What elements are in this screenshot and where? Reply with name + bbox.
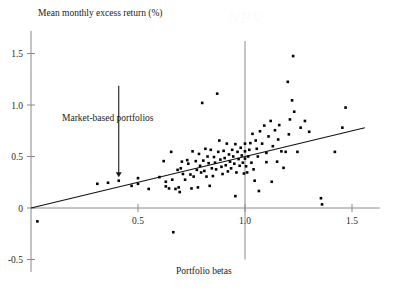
- data-point: [238, 164, 241, 167]
- data-points: [36, 55, 347, 234]
- data-point: [232, 155, 235, 158]
- data-point: [177, 186, 180, 189]
- data-point: [204, 147, 207, 150]
- data-point: [176, 169, 179, 172]
- data-point: [250, 161, 253, 164]
- data-point: [291, 99, 294, 102]
- data-point: [162, 160, 165, 163]
- data-point: [252, 168, 255, 171]
- data-point: [181, 160, 184, 163]
- data-point: [174, 188, 177, 191]
- data-point: [246, 171, 249, 174]
- data-point: [277, 138, 280, 141]
- data-point: [272, 145, 275, 148]
- reference-lines: [31, 41, 380, 259]
- data-point: [229, 160, 232, 163]
- data-point: [182, 173, 185, 176]
- data-point: [187, 162, 190, 165]
- data-point: [334, 151, 337, 154]
- data-point: [282, 167, 285, 170]
- annotation-arrow: [116, 86, 122, 177]
- data-point: [220, 166, 223, 169]
- data-point: [257, 155, 260, 158]
- data-point: [198, 153, 201, 156]
- data-point: [230, 167, 233, 170]
- data-point: [244, 157, 247, 160]
- data-point: [194, 160, 197, 163]
- data-point: [251, 133, 254, 136]
- data-point: [158, 176, 161, 179]
- data-point: [219, 158, 222, 161]
- y-tick-label: 1.0: [11, 101, 23, 111]
- data-point: [171, 178, 174, 181]
- data-point: [231, 149, 234, 152]
- axis-tick-labels: -0.500.51.01.50.51.01.5: [8, 49, 358, 265]
- data-point: [263, 124, 266, 127]
- data-point: [192, 175, 195, 178]
- data-point: [208, 185, 211, 188]
- data-point: [308, 130, 311, 133]
- data-point: [223, 157, 226, 160]
- data-point: [234, 143, 237, 146]
- data-point: [130, 185, 133, 188]
- data-point: [205, 175, 208, 178]
- data-point: [206, 155, 209, 158]
- data-point: [244, 142, 247, 145]
- data-point: [255, 147, 258, 150]
- data-point: [243, 172, 246, 175]
- data-point: [165, 185, 168, 188]
- y-tick-label: -0.5: [8, 255, 23, 265]
- data-point: [261, 142, 264, 145]
- data-point: [218, 139, 221, 142]
- data-point: [287, 81, 290, 84]
- data-point: [240, 154, 243, 157]
- data-point: [211, 167, 214, 170]
- security-market-line: [31, 128, 365, 208]
- axis-ticks: [27, 54, 352, 260]
- data-point: [237, 158, 240, 161]
- data-point: [228, 153, 231, 156]
- data-point: [172, 231, 175, 234]
- data-point: [214, 161, 217, 164]
- data-point: [270, 180, 273, 183]
- arrow-head: [116, 172, 122, 177]
- data-point: [233, 162, 236, 165]
- data-point: [249, 142, 252, 145]
- data-point: [236, 151, 239, 154]
- data-point: [222, 150, 225, 153]
- data-point: [190, 187, 193, 190]
- data-point: [235, 171, 238, 174]
- data-point: [304, 120, 307, 123]
- data-point: [197, 186, 200, 189]
- data-point: [278, 124, 281, 127]
- data-point: [221, 173, 224, 176]
- data-point: [254, 139, 257, 142]
- data-point: [170, 151, 173, 154]
- data-point: [189, 173, 192, 176]
- data-point: [274, 129, 277, 132]
- data-point: [258, 190, 261, 193]
- data-point: [117, 179, 120, 182]
- data-point: [203, 170, 206, 173]
- chart-figure: NPV Mean monthly excess return (%) Portf…: [0, 0, 404, 295]
- data-point: [207, 162, 210, 165]
- data-point: [107, 181, 110, 184]
- data-point: [289, 118, 292, 121]
- scatter-plot-canvas: -0.500.51.01.50.51.01.5: [0, 0, 404, 295]
- data-point: [344, 106, 347, 109]
- data-point: [292, 55, 295, 58]
- data-point: [248, 149, 251, 152]
- data-point: [191, 150, 194, 153]
- data-point: [293, 110, 296, 113]
- data-point: [244, 150, 247, 153]
- x-tick-label: 1.5: [346, 216, 358, 226]
- y-tick-label: 0.5: [11, 152, 23, 162]
- data-point: [178, 191, 181, 194]
- data-point: [165, 180, 168, 183]
- data-point: [239, 146, 242, 149]
- data-point: [242, 161, 245, 164]
- data-point: [320, 197, 323, 200]
- data-point: [147, 188, 150, 191]
- data-point: [137, 177, 140, 180]
- data-point: [212, 175, 215, 178]
